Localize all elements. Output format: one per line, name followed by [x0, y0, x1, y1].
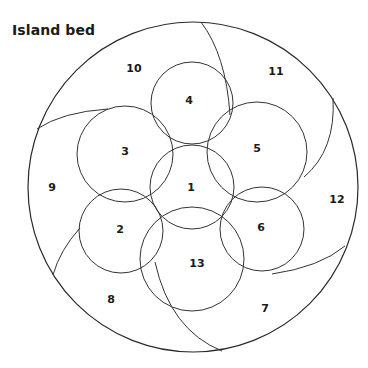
island-bed-diagram: 12345678910111213 — [0, 0, 368, 368]
section-label-10: 10 — [126, 62, 142, 75]
section-label-9: 9 — [48, 181, 56, 194]
section-label-2: 2 — [116, 223, 124, 236]
bed-section-labels: 12345678910111213 — [48, 62, 344, 315]
arc-10-11 — [201, 22, 230, 115]
arc-11-12 — [304, 98, 333, 177]
arc-8-9 — [53, 228, 80, 275]
section-label-4: 4 — [185, 94, 193, 107]
section-label-11: 11 — [268, 65, 283, 78]
section-label-13: 13 — [189, 257, 204, 270]
arc-12-7 — [272, 246, 345, 274]
section-label-12: 12 — [329, 193, 344, 206]
section-label-5: 5 — [253, 142, 261, 155]
section-label-8: 8 — [107, 293, 115, 306]
section-label-6: 6 — [257, 221, 265, 234]
section-label-7: 7 — [261, 302, 269, 315]
section-label-1: 1 — [187, 181, 195, 194]
section-label-3: 3 — [121, 145, 129, 158]
arc-9-10 — [37, 109, 108, 129]
